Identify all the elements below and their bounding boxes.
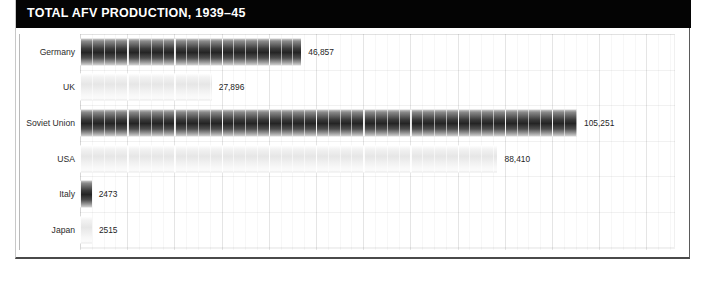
bar-row: Italy2473 xyxy=(18,176,675,212)
category-label: Soviet Union xyxy=(0,118,75,128)
bar-fill xyxy=(80,181,92,208)
category-label: Germany xyxy=(0,47,75,57)
bar-fill xyxy=(80,109,577,136)
bar-row: UK27,896 xyxy=(18,70,675,106)
bar[interactable] xyxy=(80,74,212,101)
category-label: UK xyxy=(0,82,75,92)
chart-title-bar: TOTAL AFV PRODUCTION, 1939–45 xyxy=(16,0,691,28)
bar-value-label: 2473 xyxy=(99,189,118,199)
chart-frame: TOTAL AFV PRODUCTION, 1939–45 Germany46,… xyxy=(15,0,690,259)
bar-row: USA88,410 xyxy=(18,141,675,177)
bar-row: Japan2515 xyxy=(18,212,675,248)
bar[interactable] xyxy=(80,181,92,208)
bar-value-label: 27,896 xyxy=(219,82,245,92)
bar-fill xyxy=(80,145,497,172)
bar[interactable] xyxy=(80,145,497,172)
bar-row: Germany46,857 xyxy=(18,34,675,70)
bar-value-label: 2515 xyxy=(99,225,118,235)
bar[interactable] xyxy=(80,109,577,136)
category-label: Italy xyxy=(0,189,75,199)
bar-value-label: 105,251 xyxy=(584,118,614,128)
bar-row: Soviet Union105,251 xyxy=(18,105,675,141)
plot-area: Germany46,857UK27,896Soviet Union105,251… xyxy=(18,34,675,250)
bar-fill xyxy=(80,38,301,65)
bar[interactable] xyxy=(80,38,301,65)
bar[interactable] xyxy=(80,216,92,243)
bar-fill xyxy=(80,216,92,243)
chart-figure: TOTAL AFV PRODUCTION, 1939–45 Germany46,… xyxy=(0,0,705,285)
page-title: TOTAL AFV PRODUCTION, 1939–45 xyxy=(27,6,246,20)
bar-value-label: 88,410 xyxy=(504,154,530,164)
bar-value-label: 46,857 xyxy=(308,47,334,57)
bar-fill xyxy=(80,74,212,101)
category-label: Japan xyxy=(0,225,75,235)
category-label: USA xyxy=(0,154,75,164)
